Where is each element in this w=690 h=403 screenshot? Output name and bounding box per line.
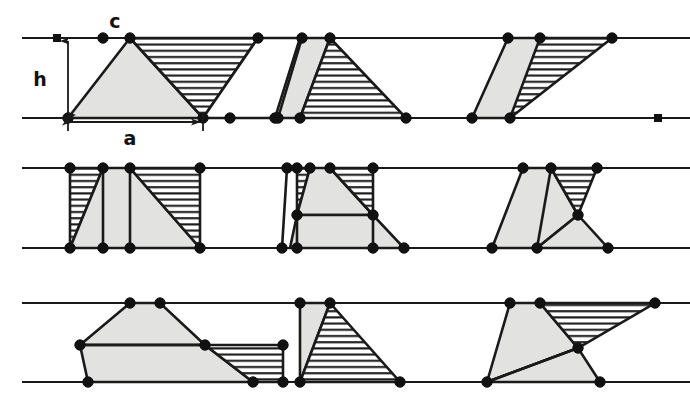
figure-root: h c a: [0, 0, 690, 403]
panel-1-right-vertex-3: [607, 33, 617, 43]
label-a: a: [124, 127, 137, 149]
panel-3-right-vertex-3: [573, 343, 583, 353]
p3l-grey-upper: [80, 303, 205, 345]
panel-2-left-vertex-5: [98, 243, 108, 253]
label-c: c: [109, 10, 120, 32]
panel-2-middle-vertex-3: [325, 163, 335, 173]
panel-1-middle-vertex-3: [295, 113, 305, 123]
label-h: h: [33, 68, 47, 90]
panel-2-left-vertex-1: [98, 163, 108, 173]
panel-2-middle-vertex-0: [282, 163, 292, 173]
panel-1-middle-vertex-0: [273, 113, 283, 123]
panel-3-left-vertex-1: [155, 298, 165, 308]
panel-2-middle-vertex-9: [368, 243, 378, 253]
panel-2-right-vertex-2: [592, 163, 602, 173]
panel-2-left-vertex-4: [65, 243, 75, 253]
panel-2-middle-vertex-10: [399, 243, 409, 253]
panel-2-middle-vertex-7: [277, 243, 287, 253]
panel-2-left-vertex-6: [125, 243, 135, 253]
panel-3-left-vertex-0: [125, 298, 135, 308]
panel-2-right-vertex-0: [518, 163, 528, 173]
panel-3-middle-vertex-0: [295, 298, 305, 308]
panel-3-middle-vertex-2: [295, 377, 305, 387]
panel-3-right-vertex-5: [595, 377, 605, 387]
panel-2-right-vertex-6: [603, 243, 613, 253]
panel-2-right-vertex-3: [573, 210, 583, 220]
panel-2-middle-vertex-1: [292, 163, 302, 173]
panel-3-middle-vertex-1: [325, 298, 335, 308]
p2m-grey-lower: [290, 215, 404, 248]
panel-1-right-vertex-2: [535, 33, 545, 43]
panel-3-right-vertex-0: [505, 298, 515, 308]
sq-row1-bottom-right: [654, 114, 662, 122]
panel-2-left-vertex-7: [195, 243, 205, 253]
panel-3-left-vertex-3: [200, 340, 210, 350]
panel-1-left-vertex-2: [125, 33, 135, 43]
panel-2-middle-vertex-8: [292, 243, 302, 253]
geometry-diagram: h c a: [0, 0, 690, 403]
shapes-group: [68, 38, 655, 382]
panel-2-middle-vertex-6: [368, 210, 378, 220]
panel-1-middle-vertex-4: [401, 113, 411, 123]
panel-1-left-vertex-5: [225, 113, 235, 123]
panel-3-left-vertex-6: [248, 377, 258, 387]
panel-3-left-vertex-5: [83, 377, 93, 387]
panel-3-left-vertex-4: [278, 340, 288, 350]
panel-1-right-vertex-4: [505, 113, 515, 123]
panel-3-left-vertex-7: [278, 377, 288, 387]
panel-2-middle-vertex-4: [368, 163, 378, 173]
panel-3-right-vertex-4: [482, 377, 492, 387]
panel-1-left-vertex-1: [98, 33, 108, 43]
panel-2-middle-vertex-2: [305, 163, 315, 173]
panel-1-left-vertex-4: [253, 33, 263, 43]
panel-3-right-vertex-1: [535, 298, 545, 308]
panel-3-left-vertex-2: [75, 340, 85, 350]
panel-2-left-vertex-0: [65, 163, 75, 173]
panel-2-right-vertex-5: [532, 243, 542, 253]
panel-1-middle-vertex-2: [325, 33, 335, 43]
panel-3-middle-vertex-3: [395, 377, 405, 387]
panel-2-left-vertex-2: [125, 163, 135, 173]
panel-2-right-vertex-1: [546, 163, 556, 173]
panel-2-middle-vertex-5: [292, 210, 302, 220]
panel-2-right-vertex-4: [487, 243, 497, 253]
panel-2-left-vertex-3: [195, 163, 205, 173]
panel-3-right-vertex-2: [650, 298, 660, 308]
panel-1-middle-vertex-1: [297, 33, 307, 43]
panel-1-right-vertex-0: [467, 113, 477, 123]
panel-2-middle-inner-line-2: [282, 168, 287, 248]
panel-1-right-vertex-1: [503, 33, 513, 43]
